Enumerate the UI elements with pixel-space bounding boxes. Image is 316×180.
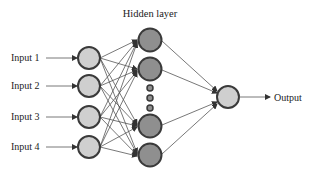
input-layer	[78, 47, 100, 158]
input-label-4: Input 4	[11, 141, 40, 152]
input-node-2	[78, 75, 100, 97]
hidden-layer-title: Hidden layer	[123, 8, 178, 19]
input-node-1	[78, 47, 100, 69]
output-node	[217, 86, 239, 108]
hidden-layer	[139, 29, 162, 167]
input-node-3	[78, 106, 100, 128]
output-label: Output	[274, 92, 302, 103]
input-label-1: Input 1	[11, 52, 40, 63]
hidden-node-3	[139, 115, 162, 138]
hidden-node-2	[139, 58, 162, 81]
input-node-4	[78, 136, 100, 158]
hidden-node-4	[139, 144, 162, 167]
ellipsis-dot-1	[147, 85, 153, 91]
ellipsis-dot-3	[147, 105, 153, 111]
input-hidden-edges	[100, 40, 137, 156]
input-label-2: Input 2	[11, 80, 40, 91]
neural-network-diagram: Hidden layer Input 1 Input 2 Input 3 Inp…	[0, 0, 316, 180]
hidden-output-edges	[162, 41, 217, 154]
input-label-3: Input 3	[11, 111, 40, 122]
input-arrows	[46, 58, 77, 147]
ellipsis-dot-2	[147, 95, 153, 101]
hidden-node-1	[139, 29, 162, 52]
